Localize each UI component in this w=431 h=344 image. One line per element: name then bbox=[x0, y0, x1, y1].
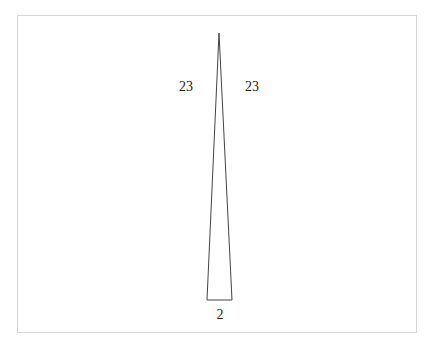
triangle-shape bbox=[207, 33, 232, 300]
left-side-label: 23 bbox=[179, 79, 193, 94]
triangle-diagram: 23 23 2 bbox=[0, 0, 431, 344]
right-side-label: 23 bbox=[245, 79, 259, 94]
base-label: 2 bbox=[217, 307, 224, 322]
